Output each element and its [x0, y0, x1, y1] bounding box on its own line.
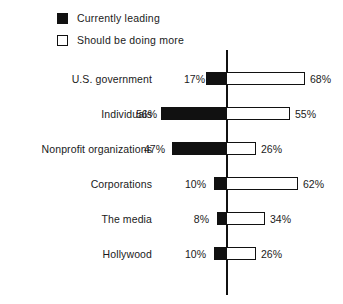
category-label-corporations: Corporations — [0, 171, 152, 197]
chart-row: The media 8% 34% — [0, 206, 343, 232]
value-label-leading: 10% — [168, 171, 206, 197]
bar-should-do-more — [226, 107, 290, 120]
chart-row: Nonprofit organizations 47% 26% — [0, 136, 343, 162]
value-label-leading: 8% — [170, 206, 209, 232]
value-label-should-do-more: 68% — [310, 66, 331, 92]
bar-should-do-more — [226, 142, 256, 155]
chart-row: Corporations 10% 62% — [0, 171, 343, 197]
category-label-hollywood: Hollywood — [0, 241, 152, 267]
bar-leading — [161, 107, 226, 120]
category-label-the-media: The media — [0, 206, 152, 232]
value-label-leading: 47% — [120, 136, 165, 162]
bar-leading — [214, 177, 226, 190]
bar-should-do-more — [226, 177, 298, 190]
category-label-us-government: U.S. government — [0, 66, 152, 92]
value-label-leading: 17% — [160, 66, 205, 92]
bar-leading — [206, 72, 226, 85]
chart-row: U.S. government 17% 68% — [0, 66, 343, 92]
bar-leading — [172, 142, 227, 155]
chart-row: Individuals 56% 55% — [0, 101, 343, 127]
value-label-leading: 10% — [168, 241, 206, 267]
bar-leading — [217, 212, 226, 225]
bar-leading — [214, 247, 226, 260]
bar-should-do-more — [226, 212, 265, 225]
value-label-should-do-more: 34% — [270, 206, 291, 232]
plot-area: U.S. government 17% 68% Individuals 56% … — [0, 0, 343, 304]
value-label-should-do-more: 26% — [261, 241, 282, 267]
chart-row: Hollywood 10% 26% — [0, 241, 343, 267]
bar-should-do-more — [226, 72, 305, 85]
bar-should-do-more — [226, 247, 256, 260]
value-label-should-do-more: 26% — [261, 136, 282, 162]
value-label-leading: 56% — [112, 101, 157, 127]
diverging-bar-chart: Currently leading Should be doing more U… — [0, 0, 343, 304]
value-label-should-do-more: 55% — [295, 101, 316, 127]
value-label-should-do-more: 62% — [303, 171, 324, 197]
